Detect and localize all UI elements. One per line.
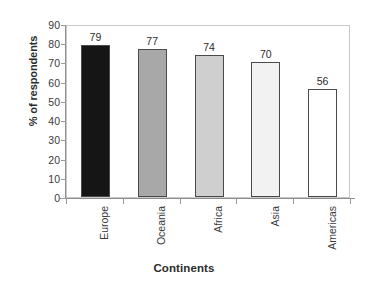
x-axis-tick-mark [123, 199, 124, 204]
bar-americas[interactable] [308, 89, 337, 197]
y-axis-tick-mark [61, 160, 66, 161]
x-axis-tick-mark [66, 199, 67, 204]
y-axis-tick-label: 80 [38, 39, 60, 49]
y-axis-tick-mark [61, 44, 66, 45]
y-axis-tick-label: 50 [38, 97, 60, 107]
bar-group: 74 [195, 24, 224, 197]
bar-asia[interactable] [251, 62, 280, 197]
bar-value-label: 79 [65, 32, 126, 43]
x-axis-tick-mark [350, 199, 351, 204]
bar-group: 70 [251, 24, 280, 197]
bar-chart: % of respondents 9080706050403020100 797… [0, 0, 368, 290]
bar-value-label: 56 [292, 76, 353, 87]
y-axis-tick-labels: 9080706050403020100 [38, 0, 60, 290]
bar-group: 77 [138, 24, 167, 197]
y-axis-tick-label: 60 [38, 78, 60, 88]
x-axis-title: Continents [0, 262, 368, 274]
x-axis-tick-mark [236, 199, 237, 204]
x-axis-line [60, 198, 355, 199]
bar-value-label: 70 [235, 49, 296, 60]
bar-value-label: 77 [122, 36, 183, 47]
y-axis-tick-label: 40 [38, 116, 60, 126]
y-axis-tick-label: 30 [38, 135, 60, 145]
y-axis-tick-mark [61, 179, 66, 180]
y-axis-tick-label: 20 [38, 155, 60, 165]
y-axis-tick-mark [61, 140, 66, 141]
bar-group: 79 [81, 24, 110, 197]
y-axis-tick-label: 10 [38, 174, 60, 184]
y-axis-tick-label: 0 [38, 193, 60, 203]
y-axis-tick-mark [61, 102, 66, 103]
y-axis-tick-mark [61, 198, 66, 199]
bar-oceania[interactable] [138, 49, 167, 197]
bar-europe[interactable] [81, 45, 110, 197]
x-axis-tick-mark [293, 199, 294, 204]
bar-group: 56 [308, 24, 337, 197]
y-axis-tick-mark [61, 83, 66, 84]
bar-africa[interactable] [195, 55, 224, 197]
plot-area: 7977747056 [66, 25, 350, 198]
bar-value-label: 74 [179, 42, 240, 53]
y-axis-tick-mark [61, 121, 66, 122]
y-axis-tick-label: 90 [38, 20, 60, 30]
x-axis-tick-mark [180, 199, 181, 204]
y-axis-tick-mark [61, 63, 66, 64]
y-axis-tick-label: 70 [38, 58, 60, 68]
y-axis-tick-mark [61, 25, 66, 26]
